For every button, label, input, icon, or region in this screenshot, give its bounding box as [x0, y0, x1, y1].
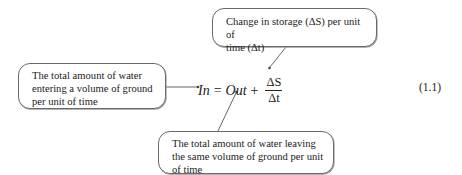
callout-text-line: of time: [172, 163, 324, 175]
callout-text-line: time (Δt): [226, 41, 367, 54]
callout-text-line: Change in storage (ΔS) per unit of: [226, 15, 367, 41]
callout-text-line: the same volume of ground per unit: [172, 150, 324, 163]
eq-out: Out: [226, 83, 247, 99]
callout-change-in-storage: Change in storage (ΔS) per unit of time …: [212, 8, 377, 47]
callout-text-line: The total amount of water leaving: [172, 137, 324, 150]
callout-text-line: per unit of time: [32, 95, 156, 108]
arrow-dot-fraction: [268, 67, 271, 70]
callout-text-line: The total amount of water: [32, 69, 156, 82]
callout-text-line: entering a volume of ground: [32, 82, 156, 95]
equation-number: (1.1): [419, 81, 441, 93]
eq-numerator: ΔS: [265, 76, 282, 91]
eq-denominator: Δt: [268, 91, 280, 105]
water-balance-equation: In = Out + ΔS Δt: [198, 76, 282, 105]
eq-plus: +: [251, 83, 259, 99]
eq-in: In: [198, 83, 210, 99]
eq-equals: =: [214, 83, 222, 99]
callout-water-out: The total amount of water leaving the sa…: [158, 131, 334, 174]
eq-fraction: ΔS Δt: [265, 76, 282, 105]
callout-water-in: The total amount of water entering a vol…: [18, 63, 166, 109]
